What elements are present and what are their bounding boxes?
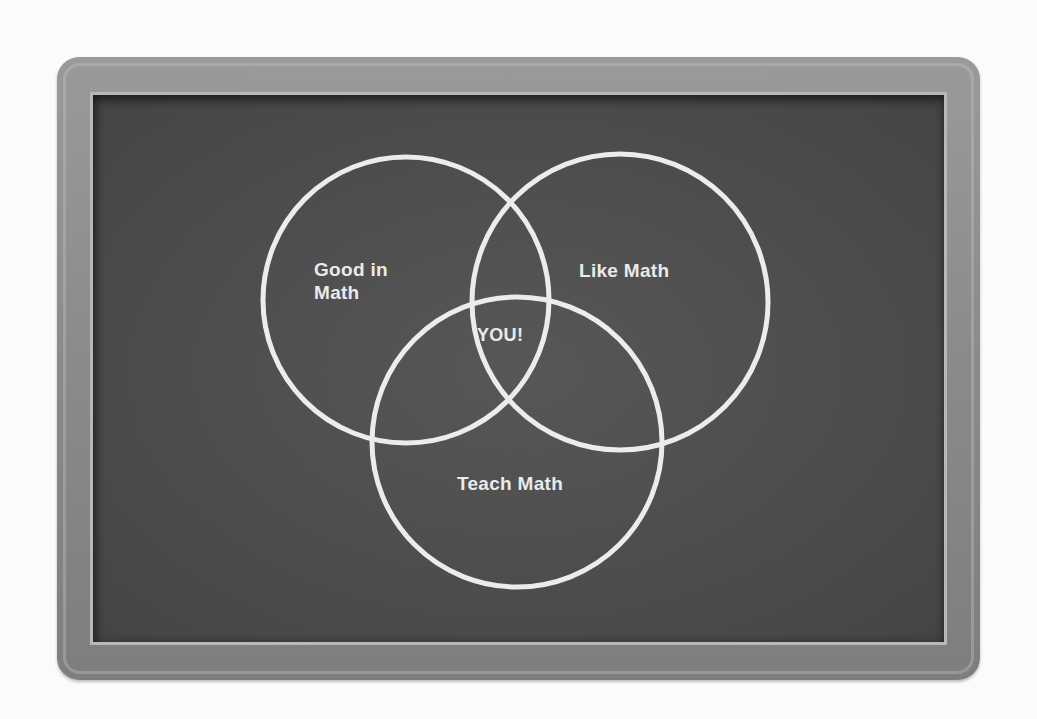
venn-diagram <box>0 0 1037 719</box>
venn-circle-like-math <box>472 154 768 450</box>
chalkboard-image: Good in Math Like Math Teach Math YOU! <box>0 0 1037 719</box>
label-intersection-you: YOU! <box>477 324 523 347</box>
label-like-math: Like Math <box>579 259 669 282</box>
label-teach-math: Teach Math <box>457 472 563 495</box>
label-good-in-math: Good in Math <box>314 258 388 304</box>
